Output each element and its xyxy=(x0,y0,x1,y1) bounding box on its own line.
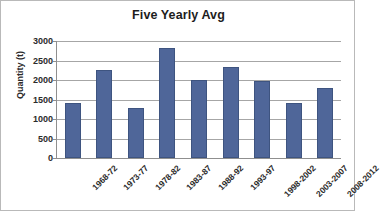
y-axis-tick-mark xyxy=(53,139,57,140)
y-axis-tick-mark xyxy=(53,80,57,81)
bar xyxy=(223,67,239,158)
y-axis-tick-mark xyxy=(53,41,57,42)
x-axis-tick-label: 1978-82 xyxy=(153,163,182,192)
x-axis-tick-label: 1998-2002 xyxy=(282,163,318,199)
bar xyxy=(317,88,333,158)
y-axis-tick-labels: 300025002000150010005000 xyxy=(1,41,53,158)
y-axis-tick-label: 3000 xyxy=(1,36,53,46)
x-axis-tick-label: 1983-87 xyxy=(185,163,214,192)
x-axis-tick-label: 1993-97 xyxy=(248,163,277,192)
y-axis-tick-label: 2500 xyxy=(1,56,53,66)
bar xyxy=(159,48,175,158)
x-axis-tick-label: 1968-72 xyxy=(90,163,119,192)
bar xyxy=(286,103,302,158)
x-axis-tick-label: 2003-2007 xyxy=(314,163,350,199)
y-axis-tick-label: 500 xyxy=(1,134,53,144)
bars-layer xyxy=(57,41,341,158)
x-axis-tick-label: 2008-2012 xyxy=(345,163,381,199)
x-axis-tick-label: 1973-77 xyxy=(121,163,150,192)
bar xyxy=(96,70,112,158)
y-axis-tick-label: 1000 xyxy=(1,114,53,124)
chart-title: Five Yearly Avg xyxy=(1,8,356,22)
y-axis-tick-mark xyxy=(53,158,57,159)
bar xyxy=(254,81,270,158)
y-axis-tick-mark xyxy=(53,119,57,120)
y-axis-tick-label: 0 xyxy=(1,153,53,163)
y-axis-tick-label: 2000 xyxy=(1,75,53,85)
x-axis-tick-label: 1988-92 xyxy=(216,163,245,192)
y-axis-tick-label: 1500 xyxy=(1,95,53,105)
x-axis-tick-labels: 1968-721973-771978-821983-871988-921993-… xyxy=(57,159,341,211)
bar xyxy=(191,80,207,158)
y-axis-tick-mark xyxy=(53,100,57,101)
bar xyxy=(65,103,81,158)
plot-area xyxy=(57,41,341,158)
y-axis-tick-mark xyxy=(53,61,57,62)
bar xyxy=(128,108,144,158)
